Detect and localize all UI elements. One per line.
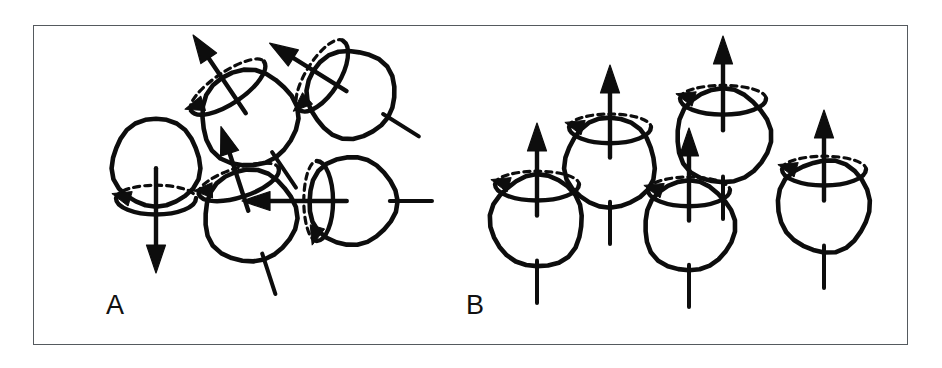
spin-a-2-axis-stub [272, 152, 296, 187]
spin-a-1-oriented [112, 119, 201, 273]
spin-b-3-axis-arrowhead [714, 36, 733, 64]
spin-b-5-oriented [778, 110, 870, 288]
spin-b-2-oriented [564, 65, 655, 244]
panel-b-group [490, 36, 870, 307]
spin-diagram-svg: A B [34, 26, 909, 346]
spin-a-5-oriented [242, 157, 432, 245]
spin-a-1 [112, 119, 201, 273]
spin-b-2 [564, 65, 655, 244]
spin-a-4 [177, 112, 320, 308]
spin-a-3-axis-shaft [286, 54, 346, 92]
spin-b-1-axis-arrowhead [528, 123, 547, 151]
figure-page: A B [0, 0, 942, 368]
figure-frame: A B [33, 25, 908, 345]
spin-b-5-axis-arrowhead [815, 110, 834, 138]
spin-a-2-axis-arrowhead [185, 30, 216, 64]
spin-b-4-axis-arrowhead [680, 128, 699, 156]
spin-a-1-axis-arrowhead [147, 245, 166, 273]
spin-a-3 [246, 26, 443, 175]
spin-a-5 [242, 157, 432, 245]
spin-a-3-oriented [246, 26, 443, 175]
panel-b-label: B [466, 290, 485, 320]
panel-a-group [112, 26, 443, 308]
spin-a-3-axis-arrowhead [265, 35, 299, 66]
spin-a-3-axis-stub [383, 114, 419, 136]
panel-a-label: A [106, 290, 125, 320]
spin-b-2-axis-arrowhead [601, 65, 620, 93]
spin-a-4-sphere [192, 158, 309, 274]
spin-a-3-sphere [290, 33, 412, 155]
spin-a-4-oriented [177, 112, 320, 308]
spin-b-5 [778, 110, 870, 288]
